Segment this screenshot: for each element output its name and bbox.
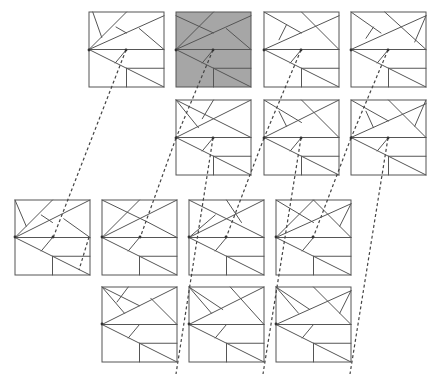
- vertex-dot: [101, 236, 104, 239]
- vertex-dot: [175, 49, 178, 52]
- square-r4c3: [189, 287, 264, 362]
- vertex-dot: [14, 236, 17, 239]
- vertex-dot: [88, 49, 91, 52]
- vertex-dot: [52, 236, 55, 239]
- vertex-dot: [312, 236, 315, 239]
- square-r4c2: [102, 287, 177, 362]
- vertex-dot: [175, 137, 178, 140]
- vertex-dot: [387, 137, 390, 140]
- vertex-dot: [212, 137, 215, 140]
- vertex-dot: [101, 323, 104, 326]
- vertex-dot: [275, 323, 278, 326]
- vertex-dot: [225, 236, 228, 239]
- vertex-dot: [300, 49, 303, 52]
- vertex-dot: [125, 49, 128, 52]
- vertex-dot: [188, 236, 191, 239]
- vertex-dot: [350, 49, 353, 52]
- squares-layer: [15, 12, 426, 362]
- vertex-dot: [300, 137, 303, 140]
- square-r4c4: [276, 287, 351, 362]
- vertex-dot: [139, 236, 142, 239]
- diagram-canvas: [0, 0, 440, 374]
- dots-layer: [14, 49, 390, 326]
- vertex-dot: [350, 137, 353, 140]
- vertex-dot: [275, 236, 278, 239]
- vertex-dot: [212, 49, 215, 52]
- vertex-dot: [188, 323, 191, 326]
- vertex-dot: [263, 137, 266, 140]
- vertex-dot: [387, 49, 390, 52]
- vertex-dot: [263, 49, 266, 52]
